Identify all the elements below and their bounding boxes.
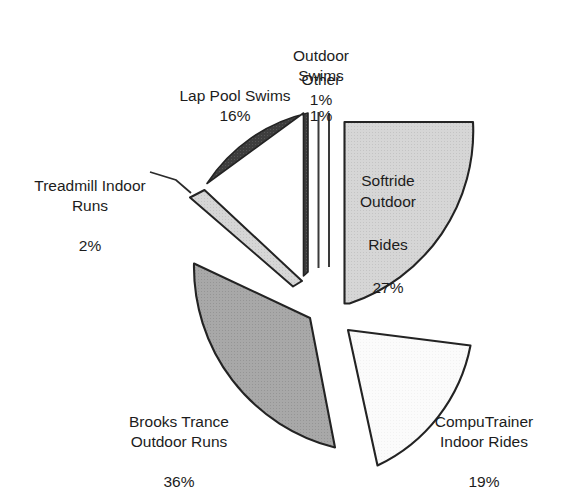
slice-label-treadmill-line1: Treadmill Indoor [34, 177, 145, 194]
slice-label-brooks-percent: 36% [84, 472, 274, 492]
pie-chart: Lap Pool Swims 16% Treadmill Indoor Runs… [0, 0, 565, 495]
slice-label-brooks-line2: Outdoor Runs [84, 432, 274, 452]
slice-label-computrainer-indoor-rides: CompuTrainer Indoor Rides 19% [404, 392, 564, 495]
slice-label-brooks-trance-outdoor-runs: Brooks Trance Outdoor Runs 36% [84, 392, 274, 495]
slice-label-treadmill-percent: 2% [6, 236, 174, 256]
slice-label-softride-line1: Softride [361, 172, 414, 189]
slice-label-brooks-line1: Brooks Trance [129, 413, 229, 430]
slice-label-compu-line2: Indoor Rides [404, 432, 564, 452]
slice-label-treadmill-line2: Runs [6, 196, 174, 216]
slice-label-compu-line1: CompuTrainer [435, 413, 534, 430]
slice-label-softride-outdoor-rides: Softride Outdoor Rides 27% [334, 148, 442, 320]
slice-label-softride-line3: Rides [334, 234, 442, 256]
slice-label-softride-percent: 27% [334, 277, 442, 299]
slice-label-other-percent: 1% [266, 90, 376, 110]
slice-label-other: Other 1% [266, 50, 376, 130]
slice-label-softride-line2: Outdoor [334, 191, 442, 213]
slice-label-treadmill-indoor-runs: Treadmill Indoor Runs 2% [6, 156, 174, 276]
slice-label-other-name: Other [302, 71, 341, 88]
slice-label-compu-percent: 19% [404, 472, 564, 492]
